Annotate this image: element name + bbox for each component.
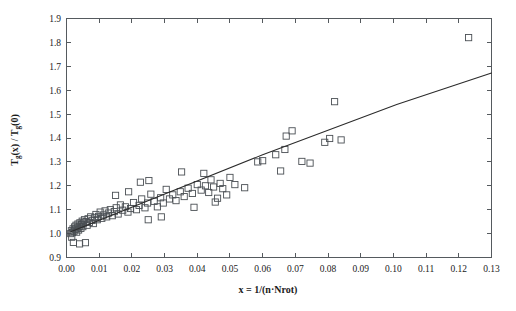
x-tick-label-1: 0.01 [91, 264, 108, 274]
x-tick-label-8: 0.08 [320, 264, 337, 274]
y-tick-label-9: 1.8 [49, 38, 61, 48]
x-tick-label-2: 0.02 [124, 264, 141, 274]
y-tick-label-7: 1.6 [49, 86, 61, 96]
y-tick-label-10: 1.9 [49, 14, 61, 24]
y-tick-label-6: 1.5 [49, 110, 61, 120]
y-tick-label-5: 1.4 [49, 133, 61, 143]
x-tick-label-6: 0.06 [254, 264, 271, 274]
x-tick-label-10: 0.10 [385, 264, 402, 274]
y-tick-label-1: 1.0 [49, 229, 61, 239]
x-tick-label-12: 0.12 [450, 264, 467, 274]
x-tick-label-4: 0.04 [189, 264, 206, 274]
x-tick-label-5: 0.05 [222, 264, 239, 274]
x-axis-title-text: x = 1/(n·Nrot) [239, 284, 298, 296]
x-tick-label-0: 0.00 [58, 264, 75, 274]
y-tick-label-4: 1.3 [49, 157, 61, 167]
y-tick-label-2: 1.1 [49, 205, 61, 215]
y-tick-label-0: 0.9 [49, 253, 61, 263]
x-tick-label-11: 0.11 [418, 264, 435, 274]
x-tick-label-7: 0.07 [287, 264, 304, 274]
chart-figure: 0.000.010.020.030.040.050.060.070.080.09… [0, 0, 516, 311]
scatter-plot: 0.000.010.020.030.040.050.060.070.080.09… [0, 0, 516, 311]
y-tick-label-3: 1.2 [49, 181, 61, 191]
x-tick-label-9: 0.09 [352, 264, 369, 274]
x-axis-title: x = 1/(n·Nrot) [239, 284, 298, 296]
x-axis-title-part-0: x = 1/(n [239, 284, 272, 296]
x-axis-title-part-2: Nrot) [274, 284, 297, 296]
x-tick-label-13: 0.13 [483, 264, 500, 274]
y-axis-title-part-5: (0) [9, 114, 21, 126]
x-tick-label-3: 0.03 [156, 264, 173, 274]
y-tick-label-8: 1.7 [49, 62, 61, 72]
y-axis-title-part-2: (x) / [9, 136, 21, 155]
